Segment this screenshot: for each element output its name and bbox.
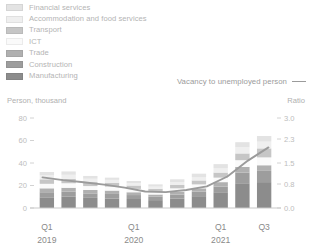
plot-svg: 0204060800.00.81.52.33.0 bbox=[0, 108, 311, 218]
bar-segment[interactable] bbox=[235, 153, 249, 160]
bar-segment[interactable] bbox=[40, 172, 54, 175]
bar-segment[interactable] bbox=[127, 195, 141, 199]
bar-segment[interactable] bbox=[235, 142, 249, 147]
bar-column[interactable] bbox=[83, 176, 97, 208]
bar-column[interactable] bbox=[61, 171, 75, 208]
left-axis-caption: Person, thousand bbox=[7, 96, 67, 105]
bar-segment[interactable] bbox=[61, 197, 75, 208]
bar-segment[interactable] bbox=[170, 179, 184, 182]
bar-segment[interactable] bbox=[105, 194, 119, 199]
bar-segment[interactable] bbox=[83, 198, 97, 208]
x-axis-quarter-label: Q1 bbox=[215, 222, 227, 232]
x-axis-quarter-label: Q1 bbox=[128, 222, 140, 232]
plot-area: 0204060800.00.81.52.33.0 bbox=[0, 108, 311, 218]
bar-segment[interactable] bbox=[83, 193, 97, 198]
bar-column[interactable] bbox=[192, 174, 206, 208]
legend-swatch-icon bbox=[6, 27, 23, 34]
y2-axis-tick-label: 0.0 bbox=[284, 204, 295, 213]
legend-item-label: Financial services bbox=[29, 4, 90, 12]
legend-swatch-icon bbox=[6, 61, 23, 68]
legend-item[interactable]: Accommodation and food services bbox=[6, 13, 206, 24]
y-axis-tick-label: 0 bbox=[23, 204, 27, 213]
legend-item[interactable]: Financial services bbox=[6, 2, 206, 13]
bar-segment[interactable] bbox=[235, 147, 249, 153]
right-axis-caption: Ratio bbox=[287, 96, 305, 105]
bar-segment[interactable] bbox=[214, 168, 228, 173]
bar-segment[interactable] bbox=[61, 188, 75, 192]
legend-item-label: ICT bbox=[29, 38, 41, 46]
line-series-key: Vacancy to unemployed person bbox=[177, 77, 306, 86]
legend-item[interactable]: Transport bbox=[6, 25, 206, 36]
bar-segment[interactable] bbox=[127, 192, 141, 195]
bar-segment[interactable] bbox=[40, 184, 54, 189]
bar-segment[interactable] bbox=[61, 171, 75, 174]
bar-segment[interactable] bbox=[127, 181, 141, 183]
bar-segment[interactable] bbox=[192, 180, 206, 184]
x-axis-year-label: 2019 bbox=[37, 235, 56, 245]
bar-segment[interactable] bbox=[192, 174, 206, 177]
bar-segment[interactable] bbox=[105, 178, 119, 180]
legend-item-label: Trade bbox=[29, 49, 49, 57]
bar-segment[interactable] bbox=[192, 192, 206, 197]
bar-segment[interactable] bbox=[148, 197, 162, 200]
y-axis-tick-label: 40 bbox=[19, 159, 27, 168]
bar-segment[interactable] bbox=[105, 198, 119, 208]
x-axis-year-label: 2021 bbox=[211, 235, 230, 245]
bar-segment[interactable] bbox=[61, 175, 75, 179]
bar-column[interactable] bbox=[127, 181, 141, 208]
y-axis-tick-label: 60 bbox=[19, 136, 27, 145]
bar-segment[interactable] bbox=[214, 187, 228, 193]
y2-axis-tick-label: 0.8 bbox=[284, 180, 295, 189]
bar-segment[interactable] bbox=[170, 198, 184, 208]
legend-item[interactable]: ICT bbox=[6, 36, 206, 47]
x-axis-quarter-label: Q1 bbox=[41, 222, 53, 232]
bar-column[interactable] bbox=[170, 179, 184, 208]
bar-segment[interactable] bbox=[105, 191, 119, 194]
bar-segment[interactable] bbox=[257, 171, 271, 182]
bar-segment[interactable] bbox=[170, 182, 184, 185]
bar-segment[interactable] bbox=[148, 200, 162, 208]
line-series-key-swatch bbox=[292, 81, 306, 82]
y-axis-tick-label: 80 bbox=[19, 114, 27, 123]
legend: Financial servicesAccommodation and food… bbox=[6, 2, 206, 82]
bar-segment[interactable] bbox=[257, 165, 271, 171]
bar-segment[interactable] bbox=[235, 183, 249, 208]
chart-root: Financial servicesAccommodation and food… bbox=[0, 0, 311, 251]
bar-segment[interactable] bbox=[214, 192, 228, 208]
bar-column[interactable] bbox=[148, 184, 162, 208]
bar-segment[interactable] bbox=[105, 180, 119, 183]
bar-segment[interactable] bbox=[192, 196, 206, 208]
bar-segment[interactable] bbox=[40, 188, 54, 192]
bar-segment[interactable] bbox=[235, 173, 249, 184]
legend-swatch-icon bbox=[6, 50, 23, 57]
bar-column[interactable] bbox=[235, 142, 249, 208]
bar-segment[interactable] bbox=[40, 197, 54, 208]
bar-segment[interactable] bbox=[61, 192, 75, 197]
bar-segment[interactable] bbox=[40, 192, 54, 197]
legend-item-label: Accommodation and food services bbox=[29, 15, 147, 23]
bar-segment[interactable] bbox=[257, 182, 271, 208]
bar-segment[interactable] bbox=[192, 177, 206, 180]
bar-segment[interactable] bbox=[257, 136, 271, 142]
legend-swatch-icon bbox=[6, 4, 23, 11]
bar-column[interactable] bbox=[214, 164, 228, 208]
legend-item[interactable]: Trade bbox=[6, 48, 206, 59]
legend-swatch-icon bbox=[6, 16, 23, 23]
legend-item[interactable]: Construction bbox=[6, 59, 206, 70]
bar-segment[interactable] bbox=[127, 183, 141, 185]
y2-axis-tick-label: 3.0 bbox=[284, 114, 295, 123]
bar-segment[interactable] bbox=[170, 195, 184, 199]
bar-segment[interactable] bbox=[40, 179, 54, 184]
bar-segment[interactable] bbox=[170, 185, 184, 188]
bar-segment[interactable] bbox=[148, 195, 162, 197]
bar-segment[interactable] bbox=[83, 176, 97, 179]
bar-segment[interactable] bbox=[148, 184, 162, 186]
bar-segment[interactable] bbox=[61, 183, 75, 188]
bar-segment[interactable] bbox=[83, 186, 97, 190]
bar-segment[interactable] bbox=[127, 199, 141, 208]
bar-segment[interactable] bbox=[257, 157, 271, 165]
bar-segment[interactable] bbox=[83, 190, 97, 193]
bar-column[interactable] bbox=[105, 178, 119, 208]
bar-segment[interactable] bbox=[148, 187, 162, 189]
bar-segment[interactable] bbox=[214, 164, 228, 168]
